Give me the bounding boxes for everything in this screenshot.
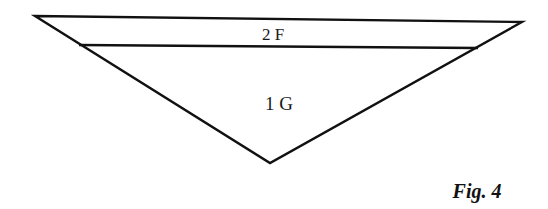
figure-caption: Fig. 4 [452, 180, 502, 203]
inner-divider-line [79, 45, 478, 48]
figure-diagram: 2 F 1 G Fig. 4 [0, 0, 548, 209]
label-lower-triangle: 1 G [265, 93, 293, 114]
label-upper-band: 2 F [262, 25, 284, 44]
